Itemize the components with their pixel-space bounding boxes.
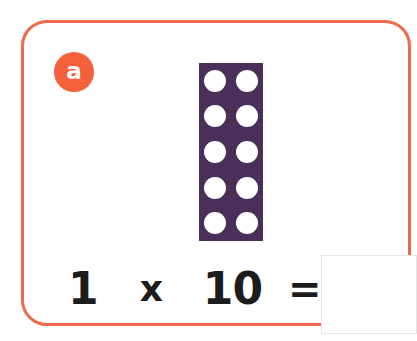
- ten-block-dot: [204, 141, 226, 163]
- equation-equals-operator: =: [288, 269, 322, 309]
- answer-input-box[interactable]: [321, 255, 417, 334]
- ten-block-dot: [236, 105, 258, 127]
- worksheet-question-card: a 1 x 10 =: [21, 20, 411, 326]
- ten-block-dot: [204, 105, 226, 127]
- ten-block-manipulative: [199, 63, 263, 241]
- equation: 1 x 10 =: [68, 261, 322, 317]
- ten-block-dot: [204, 177, 226, 199]
- equation-multiply-operator: x: [140, 271, 163, 307]
- ten-block-dot: [236, 177, 258, 199]
- equation-factor-1: 1: [68, 267, 98, 311]
- question-badge: a: [54, 52, 94, 92]
- ten-block-dot: [236, 212, 258, 234]
- question-badge-label: a: [66, 60, 82, 83]
- ten-block-dot: [204, 212, 226, 234]
- ten-block-dot: [204, 70, 226, 92]
- equation-factor-2: 10: [203, 267, 262, 311]
- ten-block-dot: [236, 70, 258, 92]
- ten-block-dot: [236, 141, 258, 163]
